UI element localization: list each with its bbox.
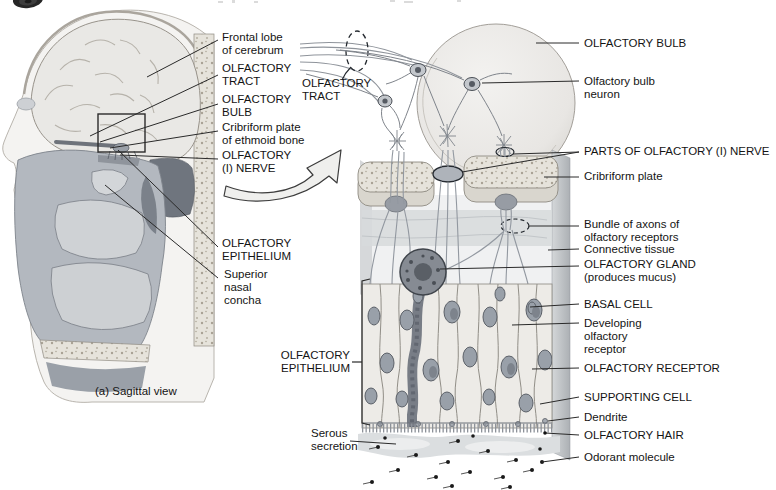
label-cribriform-plate-2: Cribriform plate [584, 170, 663, 183]
label-superior-nasal-concha: Superior nasal concha [224, 268, 267, 307]
nasal-cavity [15, 150, 166, 351]
label-olfactory-tract: OLFACTORY TRACT [222, 62, 291, 88]
label-olfactory-bulb-neuron: Olfactory bulb neuron [584, 75, 655, 101]
sagittal-view-caption: (a) Sagittal view [95, 385, 177, 398]
olfactory-gland [400, 249, 446, 295]
disc-icon [12, 0, 44, 10]
inferior-concha [51, 263, 152, 330]
label-developing-olfactory-receptor: Developing olfactory receptor [584, 317, 642, 356]
axon-bundle-oval [433, 166, 463, 182]
eye-region [17, 98, 35, 110]
label-cribriform-plate: Cribriform plate of ethmoid bone [222, 121, 304, 147]
label-bundle-of-axons: Bundle of axons of olfactory receptors [584, 218, 679, 244]
cropped-text-remnants [218, 0, 461, 3]
olfactory-hair-leader-dot [543, 431, 547, 435]
label-olfactory-receptor: OLFACTORY RECEPTOR [584, 362, 720, 375]
label-parts-of-olfactory-nerve: PARTS OF OLFACTORY (I) NERVE [584, 145, 769, 158]
sagittal-head-illustration [3, 10, 214, 402]
label-olfactory-gland: OLFACTORY GLAND (produces mucus) [584, 258, 696, 284]
page-top-strip [12, 0, 461, 10]
plate-foramen-right [495, 194, 517, 210]
label-olfactory-epithelium: OLFACTORY EPITHELIUM [222, 237, 291, 263]
label-olfactory-epithelium-2: OLFACTORY EPITHELIUM [272, 349, 350, 375]
label-dendrite: Dendrite [584, 411, 627, 424]
label-olfactory-nerve: OLFACTORY (I) NERVE [222, 149, 291, 175]
label-connective-tissue: Connective tissue [584, 243, 675, 256]
label-basal-cell: BASAL CELL [584, 298, 653, 311]
label-supporting-cell: SUPPORTING CELL [584, 391, 692, 404]
middle-concha [55, 200, 145, 259]
textbook-figure-page: Frontal lobe of cerebrum OLFACTORY TRACT… [0, 0, 776, 490]
label-odorant-molecule: Odorant molecule [584, 451, 675, 464]
label-frontal-lobe: Frontal lobe of cerebrum [222, 31, 283, 57]
label-olfactory-bulb: OLFACTORY BULB [222, 93, 291, 119]
label-olfactory-bulb-2: OLFACTORY BULB [584, 37, 686, 50]
label-olfactory-tract-2: OLFACTORY TRACT [302, 77, 371, 103]
label-olfactory-hair: OLFACTORY HAIR [584, 429, 684, 442]
serous-secretion-layer [358, 433, 560, 458]
label-serous-secretion: Serous secretion [311, 427, 358, 453]
